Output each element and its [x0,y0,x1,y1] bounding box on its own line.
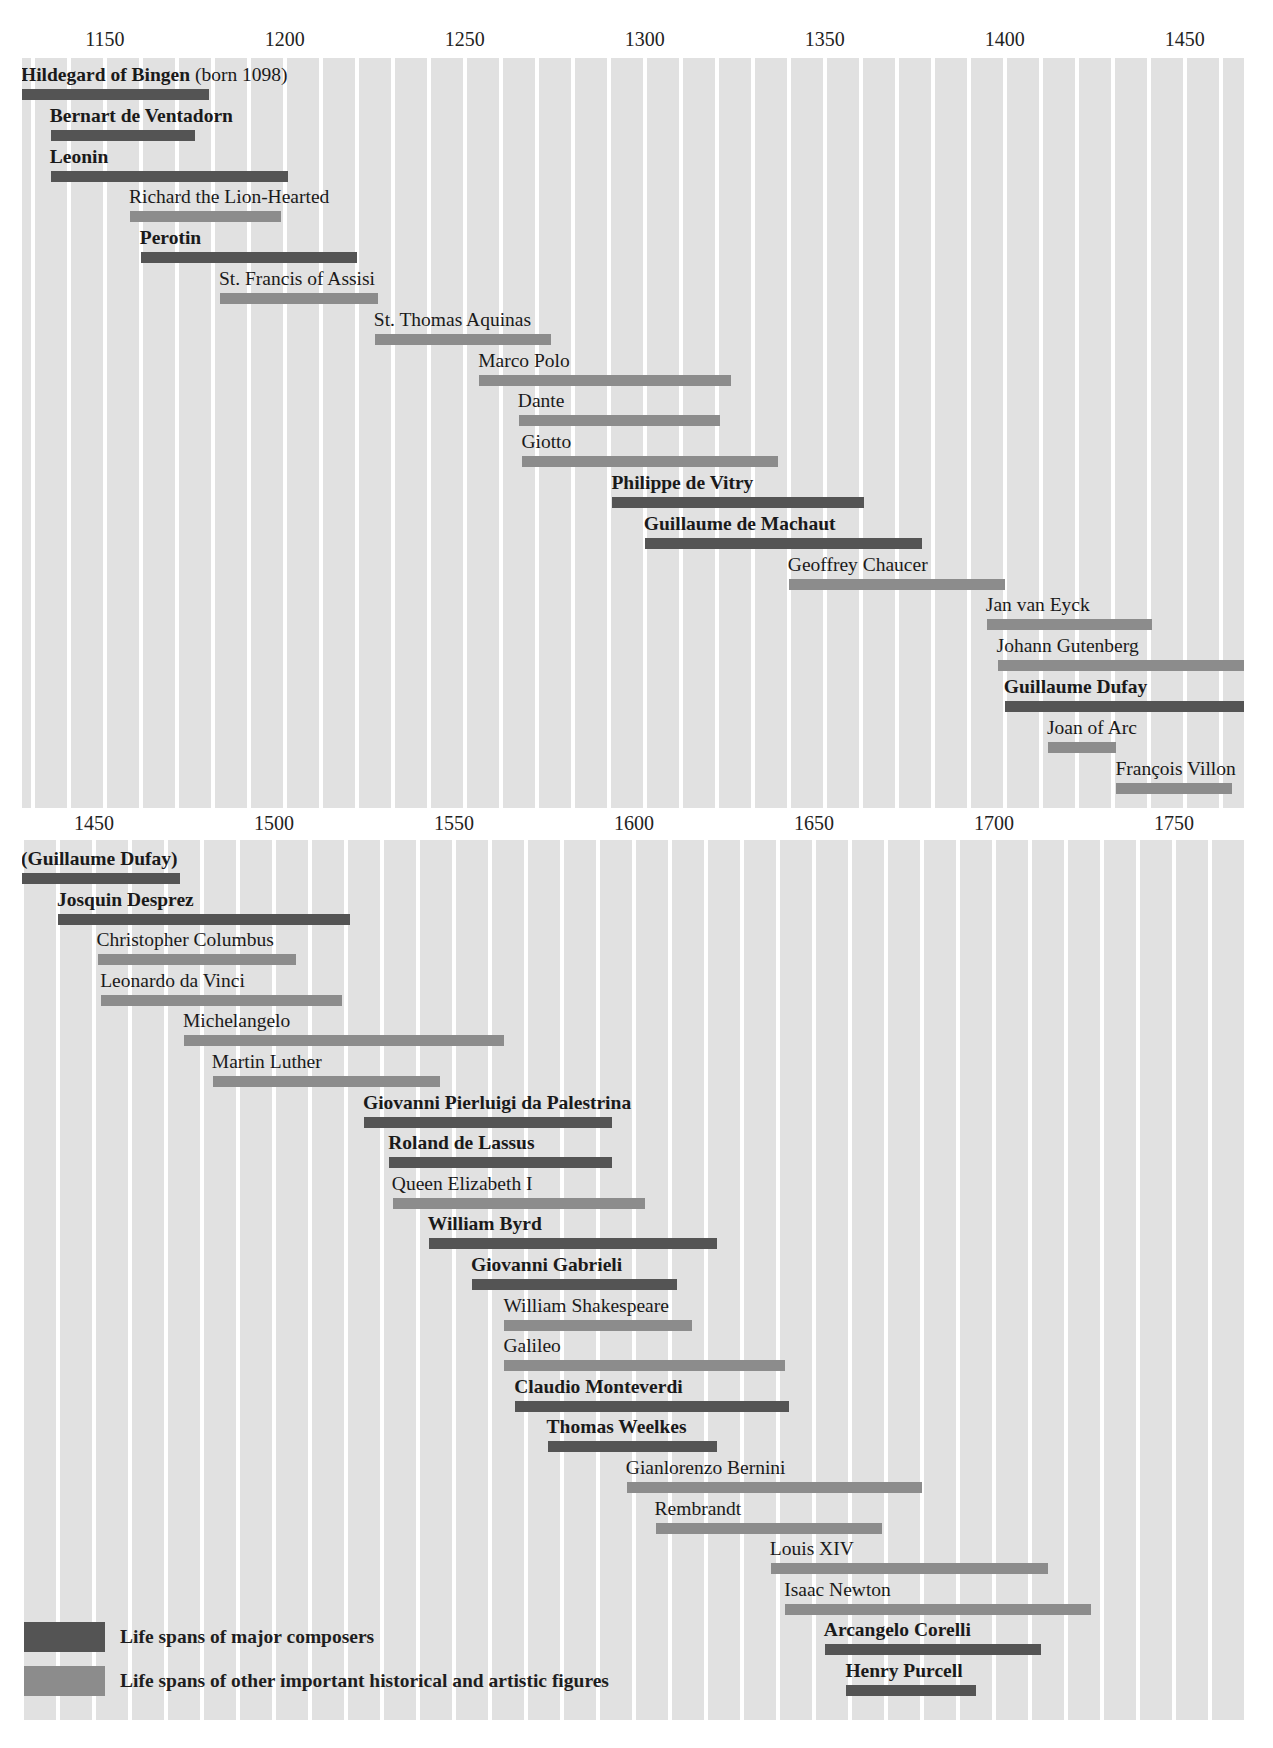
decade-band [935,58,967,808]
figure-lifespan-bar [987,619,1153,630]
row-label: Guillaume Dufay [1004,676,1148,698]
composer-lifespan-bar [364,1117,612,1128]
decade-band [827,58,859,808]
legend-swatch-other [24,1666,105,1696]
decade-band [971,58,1003,808]
figure-lifespan-bar [785,1604,1091,1615]
row-label: Dante [518,390,565,412]
person-name: Rembrandt [655,1498,742,1519]
decade-band [960,840,992,1720]
person-name: Philippe de Vitry [611,472,753,493]
decade-band [467,58,499,808]
row-label: Leonardo da Vinci [100,970,245,992]
decade-band [22,58,31,808]
legend-swatch-composer [24,1622,105,1652]
figure-lifespan-bar [220,293,378,304]
figure-lifespan-bar [375,334,551,345]
decade-band [312,840,344,1720]
row-label: St. Thomas Aquinas [374,309,531,331]
person-name: Galileo [503,1335,560,1356]
person-name: Guillaume de Machaut [644,513,836,534]
figure-lifespan-bar [504,1360,785,1371]
decade-band [575,58,607,808]
figure-lifespan-bar [98,954,296,965]
person-name: Bernart de Ventadorn [50,105,233,126]
decade-band [647,58,679,808]
decade-band [791,58,823,808]
x-tick-label: 1300 [625,28,665,51]
person-name: Giotto [521,431,571,452]
decade-band [1068,840,1100,1720]
person-name: Hildegard of Bingen [22,64,190,85]
row-label: Roland de Lassus [388,1132,534,1154]
decade-band [60,840,92,1720]
x-tick-label: 1750 [1154,812,1194,835]
person-name: Louis XIV [770,1538,854,1559]
person-name: Josquin Desprez [57,889,194,910]
x-tick-label: 1400 [985,28,1025,51]
decade-band [1212,840,1244,1720]
person-name: Roland de Lassus [388,1132,534,1153]
person-name: Joan of Arc [1047,717,1137,738]
x-tick-label: 1250 [445,28,485,51]
row-label: Martin Luther [212,1051,322,1073]
composer-lifespan-bar [22,873,180,884]
person-name: Martin Luther [212,1051,322,1072]
decade-band [888,840,920,1720]
person-name: St. Francis of Assisi [219,268,375,289]
composer-lifespan-bar [548,1441,717,1452]
composer-lifespan-bar [825,1644,1041,1655]
x-tick-label: 1650 [794,812,834,835]
composer-lifespan-bar [846,1685,976,1696]
person-name: Jan van Eyck [986,594,1090,615]
person-name: Queen Elizabeth I [392,1173,533,1194]
composer-lifespan-bar [58,914,350,925]
figure-lifespan-bar [522,456,778,467]
row-label: François Villon [1115,758,1235,780]
figure-lifespan-bar [656,1523,883,1534]
decade-band [1187,58,1219,808]
person-name: Leonardo da Vinci [100,970,245,991]
composer-lifespan-bar [612,497,864,508]
figure-lifespan-bar [1116,783,1231,794]
figure-lifespan-bar [1048,742,1116,753]
decade-band [323,58,355,808]
decade-band [287,58,319,808]
row-label: Jan van Eyck [986,594,1090,616]
row-label: Rembrandt [655,1498,742,1520]
decade-band [276,840,308,1720]
x-tick-label: 1600 [614,812,654,835]
row-label: Philippe de Vitry [611,472,753,494]
composer-lifespan-bar [1005,701,1244,712]
decade-band [708,840,740,1720]
person-note: (born 1098) [190,64,287,85]
composer-lifespan-bar [389,1157,612,1168]
x-tick-label: 1500 [254,812,294,835]
person-name: (Guillaume Dufay) [22,848,178,869]
x-tick-label: 1550 [434,812,474,835]
decade-band [24,840,56,1720]
row-label: Hildegard of Bingen (born 1098) [22,64,288,86]
composer-lifespan-bar [51,171,289,182]
person-name: Henry Purcell [845,1660,962,1681]
person-name: Christopher Columbus [97,929,274,950]
decade-band [683,58,715,808]
decade-band [431,58,463,808]
decade-band [348,840,380,1720]
decade-band [1140,840,1172,1720]
figure-lifespan-bar [479,375,731,386]
row-label: Louis XIV [770,1538,854,1560]
decade-band [1151,58,1183,808]
person-name: Johann Gutenberg [997,635,1139,656]
x-tick-label: 1150 [85,28,124,51]
row-label: William Byrd [428,1213,542,1235]
figure-lifespan-bar [184,1035,504,1046]
x-tick-label: 1700 [974,812,1014,835]
decade-band [996,840,1028,1720]
composer-lifespan-bar [51,130,195,141]
row-label: Queen Elizabeth I [392,1173,533,1195]
row-label: Joan of Arc [1047,717,1137,739]
decade-band [1032,840,1064,1720]
row-label: Isaac Newton [784,1579,891,1601]
decade-band [899,58,931,808]
